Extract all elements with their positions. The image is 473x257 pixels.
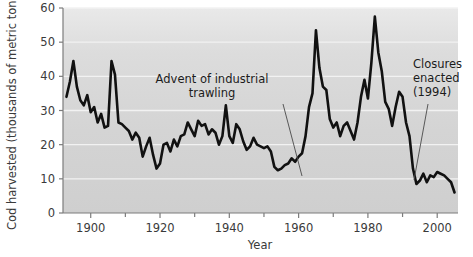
y-tick-label-50: 50 — [40, 35, 55, 49]
x-axis-title: Year — [247, 238, 273, 252]
y-tick-label-30: 30 — [40, 104, 55, 118]
annotation-line: Advent of industrial — [156, 72, 269, 86]
y-axis-tick-labels: 0102030405060 — [40, 1, 55, 220]
x-tick-label-1900: 1900 — [76, 221, 105, 235]
x-axis-tick-labels: 190019201940196019802000 — [76, 221, 452, 235]
x-axis-ticks — [91, 213, 437, 218]
x-tick-label-1940: 1940 — [215, 221, 244, 235]
annotation-line: Closures — [413, 57, 462, 71]
annotation-line: trawling — [189, 86, 236, 100]
x-tick-label-1980: 1980 — [353, 221, 382, 235]
x-tick-label-2000: 2000 — [423, 221, 452, 235]
cod-harvest-line-chart: 0102030405060 190019201940196019802000 A… — [0, 0, 473, 257]
x-tick-label-1920: 1920 — [145, 221, 174, 235]
y-tick-label-60: 60 — [40, 1, 55, 15]
y-tick-label-40: 40 — [40, 69, 55, 83]
y-tick-label-0: 0 — [48, 206, 55, 220]
y-axis-title: Cod harvested (thousands of metric tons) — [5, 0, 19, 230]
annotation-line: (1994) — [413, 85, 451, 99]
figure-container: 0102030405060 190019201940196019802000 A… — [0, 0, 473, 257]
y-tick-label-10: 10 — [40, 172, 55, 186]
annotation-line: enacted — [413, 71, 460, 85]
x-tick-label-1960: 1960 — [284, 221, 313, 235]
y-tick-label-20: 20 — [40, 138, 55, 152]
